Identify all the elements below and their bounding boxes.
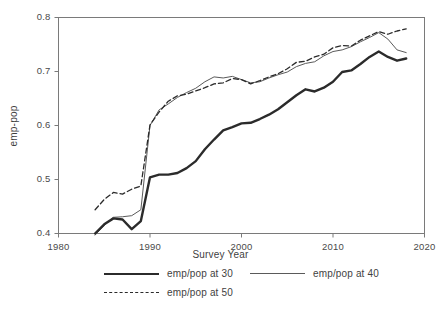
chart-legend: emp/pop at 30 emp/pop at 40 emp/pop at 5… [104, 266, 364, 306]
chart-figure: 0.40.50.60.70.8 19801990200020102020 emp… [0, 0, 441, 309]
legend-line-solid-thin-icon [250, 267, 305, 279]
legend-item-emp-pop-at-30: emp/pop at 30 [104, 266, 233, 280]
plot-canvas [0, 0, 441, 309]
legend-label: emp/pop at 40 [305, 268, 379, 279]
legend-item-emp-pop-at-50: emp/pop at 50 [104, 285, 233, 299]
legend-line-solid-thick-icon [104, 267, 159, 279]
y-axis-ticks [55, 18, 59, 234]
y-tick-label: 0.8 [7, 11, 51, 22]
x-axis-title: Survey Year [0, 249, 441, 260]
y-tick-label: 0.4 [7, 227, 51, 238]
y-tick-label: 0.7 [7, 65, 51, 76]
legend-line-dashed-icon [104, 286, 159, 298]
legend-label: emp/pop at 50 [159, 287, 233, 298]
legend-item-emp-pop-at-40: emp/pop at 40 [250, 266, 379, 280]
y-tick-label: 0.5 [7, 173, 51, 184]
x-axis-ticks [59, 234, 425, 238]
plot-frame [59, 18, 425, 234]
y-axis-title: emp-pop [8, 96, 19, 156]
legend-label: emp/pop at 30 [159, 268, 233, 279]
